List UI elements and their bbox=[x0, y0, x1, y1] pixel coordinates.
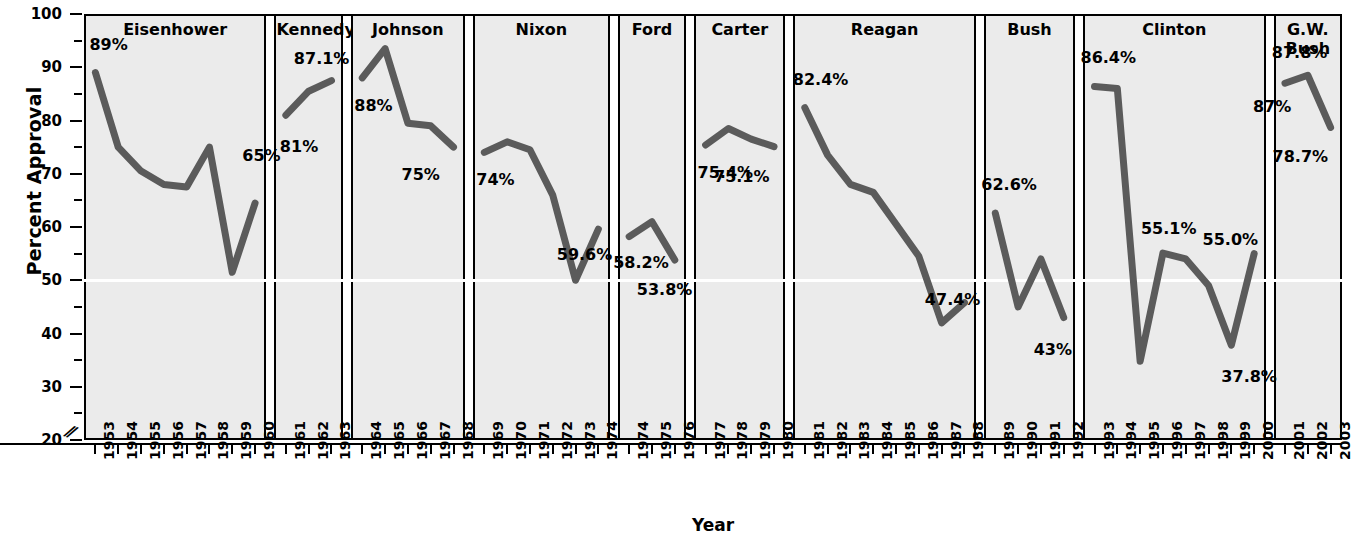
x-tick-mark bbox=[1162, 444, 1164, 454]
series-line-eisenhower bbox=[95, 73, 255, 273]
x-tick-label: 1967 bbox=[437, 421, 453, 460]
y-tick-mark-minor bbox=[74, 306, 82, 308]
y-tick-label: 100 bbox=[22, 5, 62, 23]
x-tick-label: 1971 bbox=[536, 421, 552, 460]
data-label: 55.1% bbox=[1141, 219, 1197, 238]
x-tick-label: 1991 bbox=[1047, 421, 1063, 460]
x-tick-label: 1985 bbox=[902, 421, 918, 460]
series-line-bush bbox=[995, 213, 1063, 317]
series-line-kennedy bbox=[286, 81, 332, 116]
data-label: 87% bbox=[1253, 97, 1291, 116]
data-label: 87.1% bbox=[294, 49, 350, 68]
x-tick-label: 1960 bbox=[261, 421, 277, 460]
x-tick-mark bbox=[254, 444, 256, 454]
x-tick-label: 1983 bbox=[856, 421, 872, 460]
x-tick-mark bbox=[705, 444, 707, 454]
x-tick-label: 1954 bbox=[124, 421, 140, 460]
y-tick-mark bbox=[70, 439, 82, 441]
x-tick-mark bbox=[430, 444, 432, 454]
x-axis-label: Year bbox=[84, 515, 1342, 535]
x-tick-label: 1996 bbox=[1169, 421, 1185, 460]
x-tick-mark bbox=[918, 444, 920, 454]
data-label: 89% bbox=[89, 35, 127, 54]
x-tick-label: 1977 bbox=[712, 421, 728, 460]
x-tick-mark bbox=[1185, 444, 1187, 454]
x-tick-mark bbox=[1094, 444, 1096, 454]
x-tick-label: 1957 bbox=[193, 421, 209, 460]
y-tick-label: 50 bbox=[22, 271, 62, 289]
data-label: 75% bbox=[402, 165, 440, 184]
data-label: 59.6% bbox=[557, 245, 613, 264]
series-line-gwbush bbox=[1285, 75, 1331, 127]
x-tick-label: 1989 bbox=[1001, 421, 1017, 460]
data-label: 58.2% bbox=[613, 253, 669, 272]
y-tick-label: 30 bbox=[22, 378, 62, 396]
x-tick-label: 1975 bbox=[658, 421, 674, 460]
x-tick-label: 1958 bbox=[215, 421, 231, 460]
data-label: 87.8% bbox=[1272, 43, 1328, 62]
x-tick-mark bbox=[1253, 444, 1255, 454]
x-tick-label: 1986 bbox=[925, 421, 941, 460]
y-tick-mark-minor bbox=[74, 412, 82, 414]
x-tick-label: 1965 bbox=[391, 421, 407, 460]
data-label: 74% bbox=[476, 170, 514, 189]
y-tick-mark bbox=[70, 173, 82, 175]
x-tick-mark bbox=[1040, 444, 1042, 454]
x-tick-label: 2003 bbox=[1337, 421, 1353, 460]
x-tick-mark bbox=[1139, 444, 1141, 454]
x-tick-label: 1998 bbox=[1215, 421, 1231, 460]
x-tick-mark bbox=[163, 444, 165, 454]
x-tick-mark bbox=[674, 444, 676, 454]
x-tick-label: 1962 bbox=[315, 421, 331, 460]
data-label: 86.4% bbox=[1081, 48, 1137, 67]
x-tick-mark bbox=[285, 444, 287, 454]
x-tick-label: 1959 bbox=[238, 421, 254, 460]
x-tick-label: 1978 bbox=[734, 421, 750, 460]
x-tick-label: 2002 bbox=[1314, 421, 1330, 460]
y-tick-mark bbox=[70, 386, 82, 388]
x-tick-label: 1981 bbox=[811, 421, 827, 460]
x-tick-label: 1990 bbox=[1024, 421, 1040, 460]
data-label: 82.4% bbox=[793, 70, 849, 89]
x-tick-mark bbox=[804, 444, 806, 454]
data-label: 75.1% bbox=[714, 167, 770, 186]
y-tick-mark bbox=[70, 13, 82, 15]
x-tick-mark bbox=[1284, 444, 1286, 454]
data-label: 88% bbox=[354, 96, 392, 115]
x-tick-label: 1968 bbox=[460, 421, 476, 460]
x-tick-mark bbox=[231, 444, 233, 454]
y-tick-mark-minor bbox=[74, 253, 82, 255]
x-tick-mark bbox=[994, 444, 996, 454]
x-tick-label: 1992 bbox=[1070, 421, 1086, 460]
x-tick-label: 1976 bbox=[681, 421, 697, 460]
x-tick-label: 1974 bbox=[604, 421, 620, 460]
x-tick-label: 1988 bbox=[970, 421, 986, 460]
y-tick-mark-minor bbox=[74, 146, 82, 148]
y-tick-label: 40 bbox=[22, 325, 62, 343]
data-label: 62.6% bbox=[981, 175, 1037, 194]
x-tick-label: 1964 bbox=[368, 421, 384, 460]
x-tick-mark bbox=[140, 444, 142, 454]
x-tick-mark bbox=[895, 444, 897, 454]
x-tick-label: 1955 bbox=[147, 421, 163, 460]
x-tick-mark bbox=[750, 444, 752, 454]
x-tick-label: 1956 bbox=[170, 421, 186, 460]
x-tick-label: 2000 bbox=[1260, 421, 1276, 460]
x-tick-mark bbox=[94, 444, 96, 454]
x-tick-label: 1972 bbox=[559, 421, 575, 460]
x-tick-label: 1963 bbox=[337, 421, 353, 460]
x-tick-label: 1982 bbox=[834, 421, 850, 460]
x-tick-label: 1997 bbox=[1192, 421, 1208, 460]
x-tick-mark bbox=[529, 444, 531, 454]
x-tick-label: 1984 bbox=[879, 421, 895, 460]
x-tick-mark bbox=[506, 444, 508, 454]
y-tick-label: 80 bbox=[22, 112, 62, 130]
x-tick-label: 1994 bbox=[1123, 421, 1139, 460]
x-tick-mark bbox=[872, 444, 874, 454]
x-tick-mark bbox=[361, 444, 363, 454]
x-tick-label: 1999 bbox=[1237, 421, 1253, 460]
x-tick-label: 1953 bbox=[101, 421, 117, 460]
y-tick-mark-minor bbox=[74, 359, 82, 361]
x-tick-mark bbox=[651, 444, 653, 454]
